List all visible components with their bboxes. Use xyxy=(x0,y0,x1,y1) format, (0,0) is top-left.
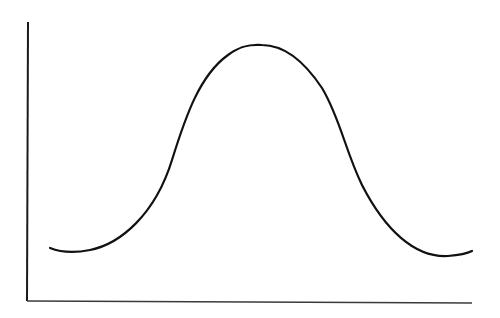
bell-curve-diagram xyxy=(0,0,500,318)
y-axis xyxy=(27,22,28,301)
bell-curve-line xyxy=(50,45,472,256)
x-axis xyxy=(27,301,472,303)
diagram-svg xyxy=(0,0,500,318)
